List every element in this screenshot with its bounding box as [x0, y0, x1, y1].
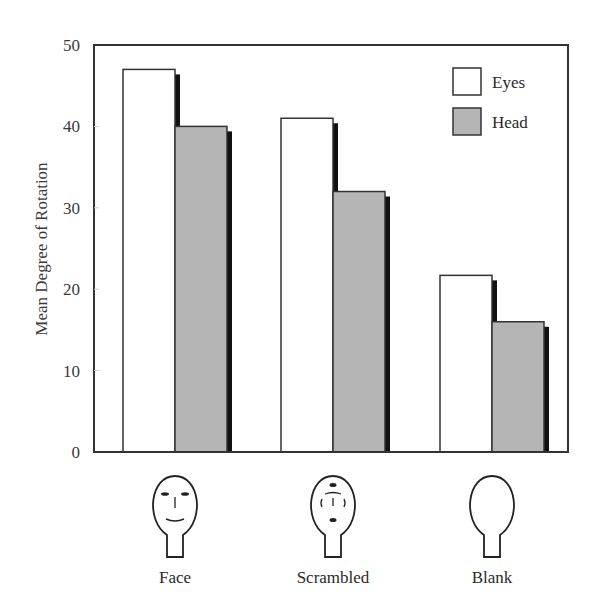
y-tick-label: 10 [63, 362, 80, 381]
category-labels: FaceScrambledBlank [159, 568, 513, 587]
bar-chart: 01020304050 Mean Degree of Rotation Eyes… [0, 0, 600, 610]
category-label-scrambled: Scrambled [297, 568, 370, 587]
bar-group-blank [440, 275, 549, 452]
bar-head-scrambled [333, 192, 385, 452]
legend-swatch-head [453, 108, 481, 135]
bar-eyes-blank [440, 275, 492, 452]
category-label-face: Face [159, 568, 191, 587]
blank-head-icon [470, 476, 514, 557]
category-label-blank: Blank [472, 568, 513, 587]
legend-label-eyes: Eyes [492, 73, 525, 92]
face-head-icon [153, 476, 197, 557]
y-tick-label: 40 [63, 117, 80, 136]
y-tick-label: 0 [72, 443, 81, 462]
y-tick-label: 30 [63, 199, 80, 218]
y-axis-title: Mean Degree of Rotation [32, 162, 51, 336]
bar-group-face [123, 69, 232, 452]
legend-swatch-eyes [453, 68, 481, 95]
legend-label-head: Head [492, 113, 528, 132]
scrambled-face-head-icon [311, 476, 355, 557]
legend: EyesHead [453, 68, 528, 135]
bar-head-face [175, 126, 227, 452]
bar-head-blank [492, 322, 544, 452]
bar-eyes-scrambled [281, 118, 333, 452]
y-tick-label: 50 [63, 36, 80, 55]
y-tick-label: 20 [63, 280, 80, 299]
category-icons [153, 476, 514, 557]
bar-group-scrambled [281, 118, 390, 452]
bar-eyes-face [123, 69, 175, 452]
